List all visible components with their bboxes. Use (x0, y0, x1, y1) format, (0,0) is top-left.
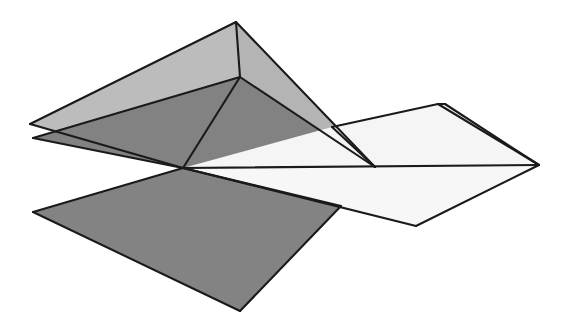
figure-canvas (0, 0, 576, 333)
polyhedron-diagram (0, 0, 576, 333)
